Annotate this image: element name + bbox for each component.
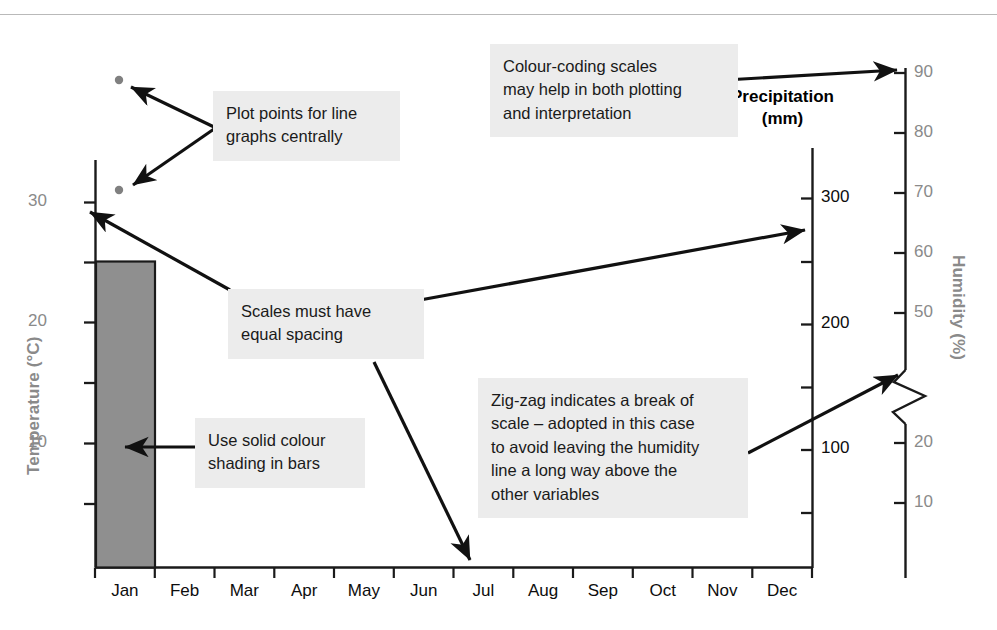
month-label-dec: Dec [752,581,812,601]
humidity-tick-label-90: 90 [914,62,933,82]
month-label-mar: Mar [215,581,275,601]
humidity-axis-title: Humidity (%) [948,255,968,360]
precipitation-tick-label-200: 200 [821,313,849,333]
month-label-feb: Feb [155,581,215,601]
humidity-tick-label-80: 80 [914,122,933,142]
arrow-plot-points-upper [131,87,214,127]
arrow-plot-points-lower [133,129,214,185]
month-label-jan: Jan [95,581,155,601]
humidity-axis-ticks [894,73,906,503]
precipitation-axis [801,148,813,568]
humidity-tick-label-20: 20 [914,432,933,452]
precipitation-tick-label-100: 100 [821,438,849,458]
month-label-apr: Apr [274,581,334,601]
humidity-tick-label-10: 10 [914,492,933,512]
temperature-tick-label-30: 30 [28,191,47,211]
month-axis-ticks [95,568,812,579]
month-label-jun: Jun [394,581,454,601]
precipitation-tick-label-300: 300 [821,187,849,207]
humidity-tick-label-50: 50 [914,302,933,322]
month-label-jul: Jul [454,581,514,601]
annotation-zig-zag: Zig-zag indicates a break of scale – ado… [478,378,748,518]
arrow-equal-spacing-months [374,362,470,560]
humidity-tick-label-70: 70 [914,182,933,202]
plot-point-upper [115,76,123,84]
annotation-solid-shading: Use solid colour shading in bars [195,418,365,488]
plot-point-lower [115,186,123,194]
arrow-equal-spacing-precipitation [420,230,805,300]
month-label-nov: Nov [693,581,753,601]
arrow-colour-coding [725,70,897,80]
month-label-oct: Oct [633,581,693,601]
humidity-tick-label-60: 60 [914,242,933,262]
month-label-sep: Sep [573,581,633,601]
precipitation-axis-ticks [801,199,813,514]
month-label-may: May [334,581,394,601]
annotation-equal-spacing: Scales must have equal spacing [228,289,424,359]
annotation-plot-points: Plot points for line graphs centrally [213,91,400,161]
axis-break-zigzag [893,370,925,424]
month-axis [95,568,812,579]
temperature-axis-ticks [84,203,96,505]
annotation-colour-coding: Colour-coding scales may help in both pl… [490,44,738,137]
month-label-aug: Aug [513,581,573,601]
temperature-tick-label-20: 20 [28,311,47,331]
january-temperature-bar [96,262,155,568]
temperature-axis-title: Temperature (°C) [24,337,44,475]
figure-canvas: 30 20 10 Temperature (°C) Precipitation … [0,0,997,630]
temperature-axis [84,160,96,567]
